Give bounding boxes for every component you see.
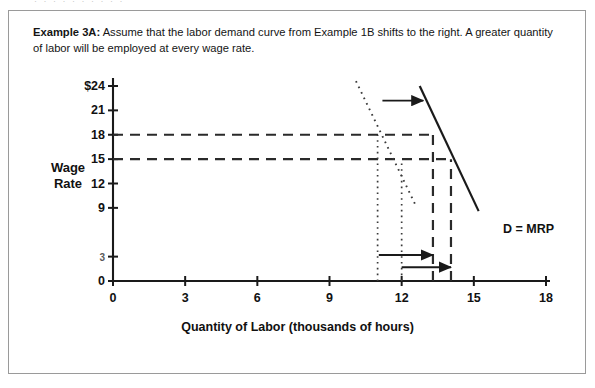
y-axis-tick-label: 3 <box>61 251 105 262</box>
x-axis-tick-label: 3 <box>182 291 189 305</box>
y-axis-tick-label: 21 <box>61 103 105 117</box>
demand-curve-new <box>420 86 479 211</box>
y-axis-tick-label: 15 <box>61 152 105 166</box>
y-axis-tick-label: $24 <box>61 79 105 93</box>
x-axis-title: Quantity of Labor (thousands of hours) <box>0 320 595 334</box>
x-axis-tick-label: 15 <box>467 291 481 305</box>
chart-geometry <box>108 78 550 286</box>
y-axis-tick-label: 9 <box>61 201 105 215</box>
y-axis-tick-label: 0 <box>61 274 105 288</box>
x-axis-tick-label: 18 <box>539 291 553 305</box>
demand-curve-label: D = MRP <box>503 222 554 236</box>
y-axis-tick-label: 18 <box>61 128 105 142</box>
x-axis-tick-label: 6 <box>254 291 261 305</box>
x-axis-tick-label: 9 <box>326 291 333 305</box>
y-axis-tick-label: 12 <box>61 177 105 191</box>
x-axis-tick-label: 12 <box>395 291 409 305</box>
x-axis-tick-label: 0 <box>110 291 117 305</box>
